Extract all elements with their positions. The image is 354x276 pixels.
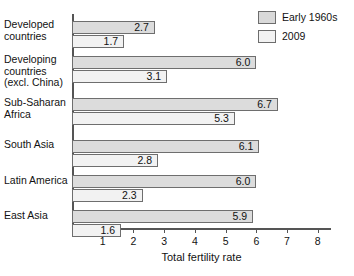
bar-value-label: 5.9 [233, 211, 253, 222]
bar-developed-countries-2009: 1.7 [72, 35, 124, 48]
x-axis-tick-label: 8 [315, 235, 321, 247]
bar-south-asia-2009: 2.8 [72, 154, 158, 167]
category-label-line: South Asia [4, 139, 72, 151]
fertility-rate-bar-chart: Early 1960s 2009 Developed countries Dev… [0, 0, 354, 276]
x-axis-tick-label: 6 [253, 235, 259, 247]
x-axis-tick [133, 228, 134, 233]
x-axis-tick-label: 2 [130, 235, 136, 247]
bar-value-label: 1.6 [100, 225, 120, 236]
category-label-line: East Asia [4, 210, 72, 222]
bar-value-label: 2.3 [122, 190, 142, 201]
bar-south-asia-early-1960s: 6.1 [72, 140, 259, 153]
category-axis-labels: Developed countries Developing countries… [0, 14, 70, 228]
bar-value-label: 2.8 [137, 155, 157, 166]
bar-value-label: 2.7 [134, 22, 154, 33]
x-axis-tick [318, 228, 319, 233]
x-axis-tick-label: 5 [223, 235, 229, 247]
bar-latin-america-early-1960s: 6.0 [72, 175, 256, 188]
x-axis-title: Total fertility rate [72, 251, 331, 263]
bar-value-label: 1.7 [104, 36, 124, 47]
category-label-developed-countries: Developed countries [4, 19, 72, 42]
plot-area: 1 2 3 4 5 6 7 8 2.7 1.7 6.0 3.1 6.7 5.3 … [72, 14, 330, 228]
category-label-line: Developing [4, 54, 72, 66]
category-label-east-asia: East Asia [4, 210, 72, 222]
bar-value-label: 6.0 [236, 176, 256, 187]
category-label-line: countries [4, 31, 72, 43]
category-label-line: (excl. China) [4, 77, 72, 89]
bar-value-label: 5.3 [214, 113, 234, 124]
x-axis-tick-label: 7 [284, 235, 290, 247]
x-axis-tick [287, 228, 288, 233]
category-label-line: Latin America [4, 175, 72, 187]
x-axis-tick-label: 3 [161, 235, 167, 247]
category-label-line: Sub-Saharan [4, 97, 72, 109]
bar-latin-america-2009: 2.3 [72, 189, 143, 202]
category-label-line: Africa [4, 109, 72, 121]
category-label-south-asia: South Asia [4, 139, 72, 151]
bar-value-label: 6.7 [257, 99, 277, 110]
category-label-sub-saharan-africa: Sub-Saharan Africa [4, 97, 72, 120]
bar-sub-saharan-africa-early-1960s: 6.7 [72, 98, 278, 111]
bar-developed-countries-early-1960s: 2.7 [72, 21, 155, 34]
x-axis-tick [195, 228, 196, 233]
x-axis-tick [226, 228, 227, 233]
bar-value-label: 6.1 [239, 141, 259, 152]
category-label-latin-america: Latin America [4, 175, 72, 187]
category-label-developing-countries: Developing countries (excl. China) [4, 54, 72, 89]
bar-developing-countries-2009: 3.1 [72, 70, 167, 83]
bar-value-label: 3.1 [147, 71, 167, 82]
category-label-line: Developed [4, 19, 72, 31]
bar-sub-saharan-africa-2009: 5.3 [72, 112, 235, 125]
bar-east-asia-2009: 1.6 [72, 224, 121, 237]
x-axis-tick-label: 4 [192, 235, 198, 247]
x-axis-tick [256, 228, 257, 233]
bar-east-asia-early-1960s: 5.9 [72, 210, 253, 223]
bar-value-label: 6.0 [236, 57, 256, 68]
x-axis-tick [164, 228, 165, 233]
bar-developing-countries-early-1960s: 6.0 [72, 56, 256, 69]
